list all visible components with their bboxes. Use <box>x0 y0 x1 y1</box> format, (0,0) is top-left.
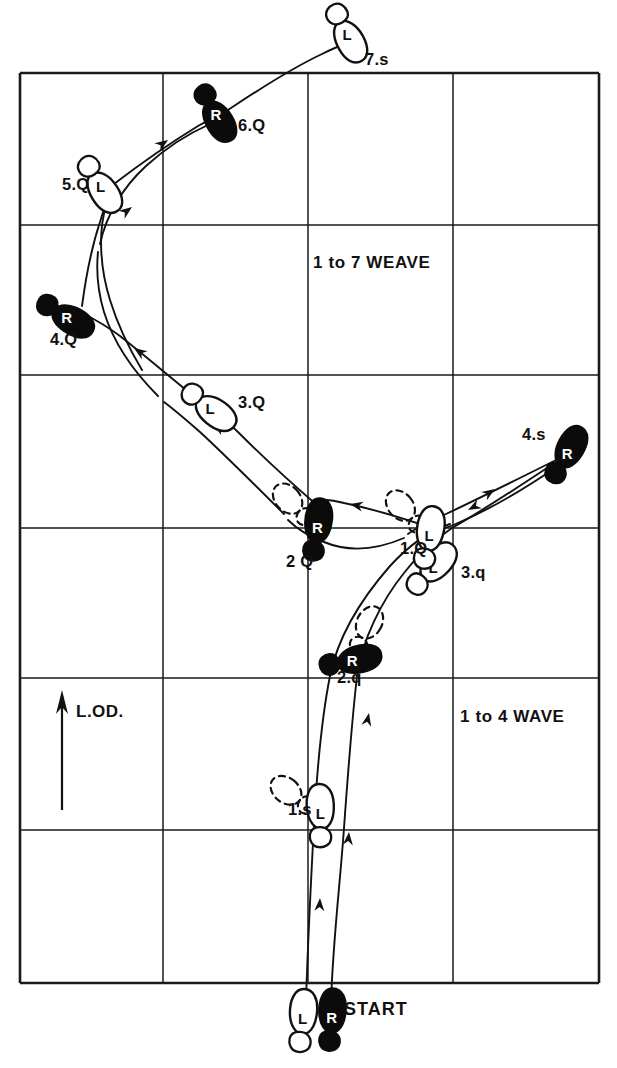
footprint-letter: L <box>316 805 325 822</box>
step-label-wave-2q: 2.q <box>337 668 361 686</box>
track-path <box>326 500 426 526</box>
step-label-weave-6q: 6.Q <box>238 116 265 134</box>
direction-arrow-icon <box>314 898 325 912</box>
footprint-weave-3q: L <box>175 379 242 437</box>
start-footprint-left: L <box>288 988 318 1053</box>
dance-step-diagram: LRLRLRLRLRL 1.s2.q3.q4.s1.Q2 Q3.Q4.Q5.Q6… <box>0 0 617 1068</box>
step-label-wave-1s: 1.s <box>288 800 312 818</box>
diagram-canvas: LRLRLRLRLRL 1.s2.q3.q4.s1.Q2 Q3.Q4.Q5.Q6… <box>0 0 617 1068</box>
track-path <box>331 528 452 1002</box>
footprint-letter: L <box>342 26 351 43</box>
step-label-wave-3q: 3.q <box>461 563 485 581</box>
footprint-letter: R <box>61 309 72 326</box>
line-of-dance-indicator: L.OD. <box>56 690 124 810</box>
track-path <box>101 206 142 370</box>
footprint-letter: L <box>298 1010 307 1027</box>
step-label-weave-2q: 2 Q <box>286 552 313 570</box>
footprint-heel <box>289 1031 311 1052</box>
section-label-wave: 1 to 4 WAVE <box>460 707 565 726</box>
lod-label: L.OD. <box>76 702 124 721</box>
start-position: LRSTART <box>288 988 408 1053</box>
step-label-wave-4s: 4.s <box>522 425 546 443</box>
footprint-letter: R <box>326 1009 337 1026</box>
footprint-letter: L <box>205 400 214 417</box>
footprint-letter: R <box>210 106 221 123</box>
direction-arrow-icon <box>343 832 354 846</box>
step-label-weave-5q: 5.Q <box>62 175 89 193</box>
step-label-weave-4q: 4.Q <box>50 330 77 348</box>
footprint-weave-6q: R <box>186 80 243 148</box>
footprint-letter: L <box>96 178 105 195</box>
direction-arrow-icon <box>361 712 373 727</box>
footprint-letter: R <box>562 445 573 462</box>
footprint-heel <box>309 826 332 848</box>
footprint-letter: R <box>347 652 358 669</box>
footprint-heel <box>318 1031 340 1052</box>
step-label-weave-3q: 3.Q <box>238 393 265 411</box>
track-path <box>228 43 348 110</box>
track-path <box>306 524 450 1000</box>
start-footprint-right: R <box>317 988 346 1052</box>
step-label-weave-1q: 1.Q <box>400 539 427 557</box>
footprint-letter: R <box>312 519 323 536</box>
step-labels: 1.s2.q3.q4.s1.Q2 Q3.Q4.Q5.Q6.Q7.s <box>50 50 546 818</box>
direction-arrow-icon <box>481 485 497 500</box>
footprint-wave-4s: R <box>540 421 593 490</box>
step-label-weave-7s: 7.s <box>365 50 389 68</box>
track-path <box>440 466 558 529</box>
start-label: START <box>344 999 408 1019</box>
section-label-weave: 1 to 7 WEAVE <box>313 253 430 272</box>
